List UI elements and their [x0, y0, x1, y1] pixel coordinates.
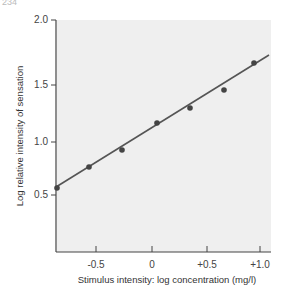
data-point [154, 120, 160, 126]
y-tick-label: 0.5 [34, 189, 48, 200]
data-point [86, 164, 92, 170]
x-axis: -0.5 0 +0.5 +1.0 Stimulus intensity: log… [56, 246, 271, 285]
data-point [251, 60, 257, 66]
x-tick-label: +0.5 [197, 259, 217, 270]
chart: 2.0 1.5 1.0 0.5 Log relative intensity o… [0, 0, 285, 300]
y-axis: 2.0 1.5 1.0 0.5 Log relative intensity o… [14, 14, 56, 252]
x-tick-label: -0.5 [87, 259, 105, 270]
data-point [187, 105, 193, 111]
data-point [221, 87, 227, 93]
data-point [119, 147, 125, 153]
y-axis-title: Log relative intensity of sensation [14, 66, 25, 206]
data-point [54, 185, 60, 191]
x-tick-label: +1.0 [250, 259, 270, 270]
x-axis-title: Stimulus intensity: log concentration (m… [78, 274, 256, 285]
y-tick-label: 1.5 [34, 79, 48, 90]
y-tick-label: 1.0 [34, 136, 48, 147]
x-tick-label: 0 [149, 259, 155, 270]
y-tick-label: 2.0 [34, 14, 48, 25]
plot-area [57, 20, 271, 252]
